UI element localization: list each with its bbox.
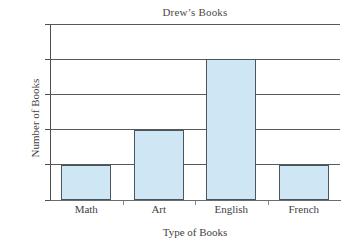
plot-area (50, 24, 340, 200)
y-tick-mark (45, 200, 50, 201)
bar-art (134, 130, 184, 200)
y-tick-mark (45, 164, 50, 165)
bar-english (206, 59, 256, 200)
bar-math (61, 165, 111, 200)
gridline (50, 59, 340, 60)
x-axis-label: Type of Books (50, 226, 340, 238)
gridline (50, 94, 340, 95)
x-tick-mark (268, 201, 269, 205)
gridline (50, 129, 340, 130)
bar-chart: Drew’s Books Number of Books Type of Boo… (0, 0, 352, 249)
y-tick-mark (45, 129, 50, 130)
x-tick-mark (195, 201, 196, 205)
y-tick-mark (45, 59, 50, 60)
gridline (50, 24, 340, 25)
x-tick-mark (123, 201, 124, 205)
y-tick-mark (45, 24, 50, 25)
x-tick-label-french: French (259, 203, 349, 215)
y-axis-label: Number of Books (29, 43, 41, 193)
y-tick-mark (45, 94, 50, 95)
chart-title: Drew’s Books (50, 6, 340, 18)
bar-french (279, 165, 329, 200)
